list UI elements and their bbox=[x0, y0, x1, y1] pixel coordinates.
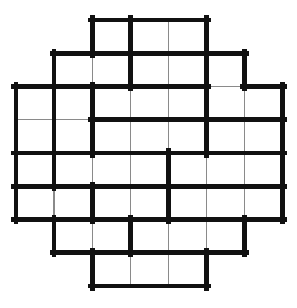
puzzle-cell[interactable] bbox=[16, 153, 54, 186]
puzzle-cell[interactable] bbox=[16, 120, 54, 153]
cell-hit-layer bbox=[16, 20, 283, 286]
puzzle-cell[interactable] bbox=[207, 87, 245, 120]
puzzle-cell[interactable] bbox=[168, 186, 206, 219]
puzzle-cell[interactable] bbox=[130, 120, 168, 153]
puzzle-grid-svg bbox=[0, 0, 297, 308]
puzzle-cell[interactable] bbox=[92, 53, 130, 86]
puzzle-cell[interactable] bbox=[92, 87, 130, 120]
puzzle-cell[interactable] bbox=[92, 20, 130, 53]
puzzle-cell[interactable] bbox=[207, 53, 245, 86]
puzzle-cell[interactable] bbox=[245, 186, 283, 219]
puzzle-cell[interactable] bbox=[130, 186, 168, 219]
puzzle-diagram bbox=[0, 0, 297, 308]
puzzle-cell[interactable] bbox=[130, 20, 168, 53]
puzzle-cell[interactable] bbox=[168, 253, 206, 286]
puzzle-cell[interactable] bbox=[92, 253, 130, 286]
puzzle-cell[interactable] bbox=[130, 153, 168, 186]
puzzle-cell[interactable] bbox=[168, 153, 206, 186]
puzzle-cell[interactable] bbox=[130, 53, 168, 86]
puzzle-cell[interactable] bbox=[54, 153, 92, 186]
puzzle-cell[interactable] bbox=[54, 220, 92, 253]
puzzle-cell[interactable] bbox=[130, 87, 168, 120]
puzzle-cell[interactable] bbox=[207, 120, 245, 153]
puzzle-cell[interactable] bbox=[130, 253, 168, 286]
puzzle-cell[interactable] bbox=[207, 153, 245, 186]
puzzle-cell[interactable] bbox=[92, 153, 130, 186]
puzzle-cell[interactable] bbox=[130, 220, 168, 253]
puzzle-cell[interactable] bbox=[168, 53, 206, 86]
puzzle-cell[interactable] bbox=[16, 87, 54, 120]
puzzle-cell[interactable] bbox=[207, 220, 245, 253]
puzzle-cell[interactable] bbox=[245, 120, 283, 153]
puzzle-cell[interactable] bbox=[207, 186, 245, 219]
puzzle-cell[interactable] bbox=[92, 186, 130, 219]
puzzle-cell[interactable] bbox=[245, 153, 283, 186]
puzzle-cell[interactable] bbox=[168, 220, 206, 253]
puzzle-cell[interactable] bbox=[54, 53, 92, 86]
puzzle-cell[interactable] bbox=[54, 120, 92, 153]
puzzle-cell[interactable] bbox=[16, 186, 54, 219]
puzzle-cell[interactable] bbox=[245, 87, 283, 120]
puzzle-cell[interactable] bbox=[168, 87, 206, 120]
puzzle-cell[interactable] bbox=[92, 220, 130, 253]
puzzle-cell[interactable] bbox=[92, 120, 130, 153]
puzzle-cell[interactable] bbox=[168, 120, 206, 153]
puzzle-cell[interactable] bbox=[54, 186, 92, 219]
puzzle-cell[interactable] bbox=[168, 20, 206, 53]
puzzle-cell[interactable] bbox=[54, 87, 92, 120]
